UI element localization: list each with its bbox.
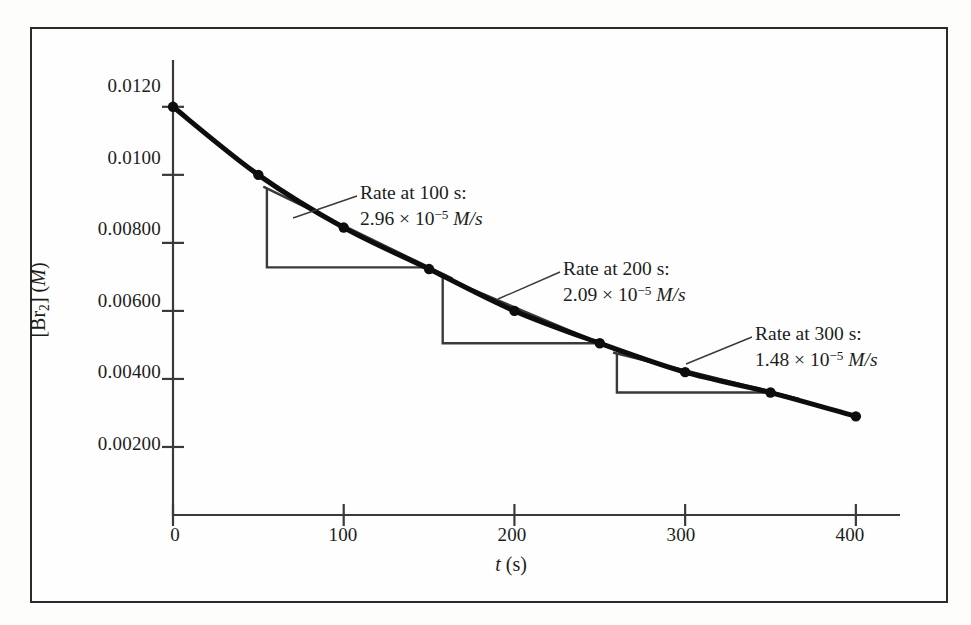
x-tick-label-1: 100: [328, 524, 357, 546]
annotation-rate-100-exponent: −5: [434, 207, 448, 222]
annotation-rate-300-value: 1.48: [755, 349, 789, 370]
data-point-300: [680, 367, 690, 377]
y-axis-title-unit: M: [27, 269, 49, 286]
annotation-rate-200: Rate at 200 s: 2.09 × 10−5 M/s: [563, 256, 686, 307]
leader-line-rate-200: [498, 272, 560, 299]
y-tick-label-2: 0.00800: [98, 218, 161, 240]
x-axis-title: t (s): [495, 553, 527, 576]
annotation-rate-100-base: 10: [415, 208, 435, 229]
annotation-rate-300-base: 10: [810, 349, 830, 370]
annotation-rate-100: Rate at 100 s: 2.96 × 10−5 M/s: [360, 180, 483, 231]
data-point-50: [253, 170, 263, 180]
annotation-rate-200-line2: 2.09 × 10−5 M/s: [563, 282, 686, 308]
tangent-triangles: [267, 189, 774, 393]
tangent-lines: [263, 187, 799, 399]
y-tick-label-4: 0.00400: [98, 361, 161, 383]
concentration-curve: [173, 107, 856, 417]
annotation-rate-100-times: ×: [394, 208, 415, 229]
leader-line-rate-300: [686, 337, 752, 364]
annotation-rate-300-exponent: −5: [829, 348, 843, 363]
data-point-0: [168, 102, 178, 112]
annotation-rate-300: Rate at 300 s: 1.48 × 10−5 M/s: [755, 321, 878, 372]
annotation-rate-200-exponent: −5: [637, 283, 651, 298]
annotation-rate-100-line1: Rate at 100 s:: [360, 182, 467, 203]
annotation-rate-200-base: 10: [618, 284, 638, 305]
x-axis-title-unit: (s): [501, 553, 527, 575]
y-axis-title-bracket: [Br: [27, 311, 49, 338]
axis-lines: [173, 60, 900, 516]
x-tick-label-3: 300: [666, 524, 695, 546]
annotation-rate-200-value: 2.09: [563, 284, 597, 305]
y-axis-title: [Br2] (M): [27, 262, 53, 337]
data-point-200: [509, 306, 519, 316]
annotation-rate-300-units: M/s: [843, 349, 877, 370]
annotation-rate-100-units: M/s: [448, 208, 482, 229]
annotation-rate-200-line1: Rate at 200 s:: [563, 258, 670, 279]
data-point-250: [595, 338, 605, 348]
y-axis-title-subscript: 2: [37, 304, 52, 311]
kinetics-figure: 0.0120 0.0100 0.00800 0.00600 0.00400 0.…: [0, 0, 971, 625]
annotation-rate-200-times: ×: [597, 284, 618, 305]
y-axis-title-close: ): [27, 262, 49, 269]
data-point-markers: [168, 102, 861, 422]
data-point-100: [339, 222, 349, 232]
x-tick-label-0: 0: [170, 524, 180, 546]
data-point-150: [424, 264, 434, 274]
annotation-rate-100-line2: 2.96 × 10−5 M/s: [360, 206, 483, 232]
x-tick-label-2: 200: [497, 524, 526, 546]
x-tick-label-4: 400: [835, 524, 864, 546]
annotation-rate-200-units: M/s: [651, 284, 685, 305]
y-tick-label-0: 0.0120: [108, 75, 161, 97]
data-point-400: [851, 411, 861, 421]
y-tick-label-3: 0.00600: [98, 290, 161, 312]
annotation-rate-300-line2: 1.48 × 10−5 M/s: [755, 347, 878, 373]
annotation-rate-300-times: ×: [789, 349, 810, 370]
y-tick-label-1: 0.0100: [108, 147, 161, 169]
annotation-rate-100-value: 2.96: [360, 208, 394, 229]
y-axis-title-mid: ] (: [27, 286, 49, 304]
y-tick-label-5: 0.00200: [98, 433, 161, 455]
annotation-rate-300-line1: Rate at 300 s:: [755, 323, 862, 344]
data-point-350: [765, 387, 775, 397]
